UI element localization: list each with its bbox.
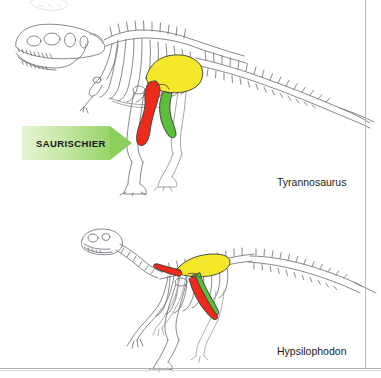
species-caption-tyrannosaurus: Tyrannosaurus <box>277 176 346 188</box>
tail <box>248 249 376 293</box>
plate-border-bottom-shadow <box>0 370 381 371</box>
skull <box>81 229 122 255</box>
forelimb <box>127 276 186 348</box>
bleed-through-artifact <box>30 0 68 10</box>
hindlimb-near <box>147 278 187 372</box>
neck <box>116 244 162 278</box>
panel-saurischia: SAURISCHIER <box>0 0 381 196</box>
tail <box>196 51 374 128</box>
arrow-body: SAURISCHIER <box>22 126 110 160</box>
figure-panel: SAURISCHIER <box>0 0 381 378</box>
tyrannosaurus-skeleton <box>0 0 381 196</box>
group-arrow-saurischia: SAURISCHIER <box>22 126 132 160</box>
arrow-label-saurischia: SAURISCHIER <box>36 138 106 149</box>
skull <box>16 24 105 70</box>
pubis-red <box>137 81 160 146</box>
arrow-head <box>110 126 132 160</box>
ischium-green <box>160 92 176 138</box>
plate-border-right <box>365 0 366 369</box>
ilium-yellow <box>177 254 230 277</box>
species-caption-hypsilophodon: Hypsilophodon <box>277 345 346 357</box>
plate-border-bottom <box>0 368 381 369</box>
